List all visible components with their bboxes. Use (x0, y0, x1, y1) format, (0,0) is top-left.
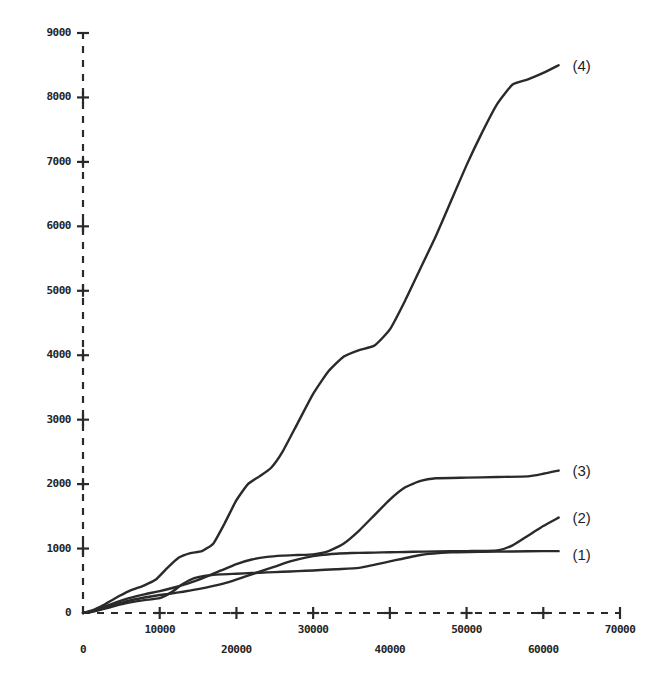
y-axis-tick-label: 0 (65, 606, 71, 619)
y-axis-tick-label: 3000 (47, 413, 72, 426)
series-line-1 (83, 551, 559, 613)
y-axis-tick-label: 6000 (47, 219, 72, 232)
chart-container: 0100020003000400050006000700080009000 01… (0, 0, 669, 687)
x-axis-tick-label: 10000 (125, 623, 195, 636)
y-axis-tick-label: 4000 (47, 348, 72, 361)
x-axis-tick-label: 60000 (508, 643, 578, 656)
series-label-2: (2) (572, 509, 590, 526)
chart-plot-area (0, 0, 669, 687)
y-axis-tick-label: 8000 (47, 90, 72, 103)
series-label-4: (4) (572, 57, 590, 74)
y-axis-tick-label: 7000 (47, 155, 72, 168)
series-label-1: (1) (572, 546, 590, 563)
x-axis-tick-label: 40000 (355, 643, 425, 656)
x-axis-tick-label: 70000 (585, 623, 655, 636)
x-axis-tick-label: 50000 (432, 623, 502, 636)
series-line-4 (83, 65, 559, 613)
x-axis-tick-label: 30000 (278, 623, 348, 636)
series-line-3 (83, 471, 559, 613)
x-axis-tick-label: 0 (48, 643, 118, 656)
x-axis-tick-label: 20000 (201, 643, 271, 656)
y-axis-tick-label: 2000 (47, 477, 72, 490)
series-label-3: (3) (572, 462, 590, 479)
y-axis-tick-label: 5000 (47, 284, 72, 297)
y-axis-tick-label: 9000 (47, 26, 72, 39)
y-axis-tick-label: 1000 (47, 542, 72, 555)
